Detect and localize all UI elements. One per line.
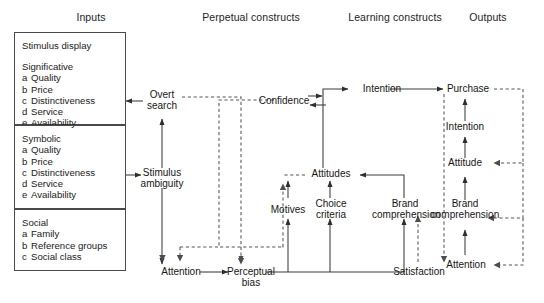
edge-brand-comprehension-to-attitudes [360, 175, 404, 198]
input-box-symbolic: Symbolic aQuality bPrice cDistinctivenes… [14, 125, 126, 209]
list-item: cSocial class [22, 251, 107, 262]
item-key: a [22, 228, 31, 239]
list-item: bReference groups [22, 240, 107, 251]
input-box-stimulus-display: Stimulus display Significative aQuality … [14, 32, 126, 125]
list-item: aQuality [22, 72, 95, 83]
list-item: bPrice [22, 84, 95, 95]
list-item: cDistinctiveness [22, 95, 95, 106]
node-perceptual-bias: Perceptual bias [226, 266, 276, 288]
input-box-title: Stimulus display [22, 40, 91, 51]
item-key: b [22, 156, 31, 167]
edge-purchase-to-attitude-out-dashed [494, 89, 523, 163]
arrowhead-attitude-out-dashed [494, 160, 501, 166]
item-key: c [22, 95, 31, 106]
item-key: c [22, 167, 31, 178]
item-key: c [22, 251, 31, 262]
item-text: Distinctiveness [31, 167, 95, 178]
node-attitudes: Attitudes [306, 168, 356, 179]
item-key: a [22, 72, 31, 83]
list-item: cDistinctiveness [22, 167, 95, 178]
node-stimulus-ambiguity: Stimulus ambiguity [133, 167, 191, 189]
node-intention-learning: Intention [358, 83, 406, 94]
node-choice-criteria: Choice criteria [312, 198, 350, 220]
item-text: Reference groups [31, 240, 107, 251]
arrowhead-attention-out-dashed [494, 262, 501, 268]
item-text: Price [31, 84, 53, 95]
diagram-canvas: Inputs Perpetual constructs Learning con… [0, 0, 544, 303]
edge-purchase-to-attention-out-dashed [497, 218, 523, 265]
node-intention-output: Intention [441, 121, 489, 132]
item-text: Quality [31, 144, 61, 155]
item-text: Social class [31, 251, 82, 262]
node-brand-comprehension-output: Brand comprehension [425, 198, 505, 220]
node-motives: Motives [266, 204, 310, 215]
input-box-group: Significative aQuality bPrice cDistincti… [22, 61, 95, 129]
node-attention-perpetual: Attention [155, 266, 207, 277]
item-text: Availability [31, 189, 76, 200]
list-item: eAvailability [22, 189, 95, 200]
item-text: Service [31, 178, 63, 189]
arrowhead-attitudes-dashed [280, 184, 286, 191]
node-purchase: Purchase [443, 83, 493, 94]
item-text: Price [31, 156, 53, 167]
item-text: Distinctiveness [31, 95, 95, 106]
item-key: a [22, 144, 31, 155]
item-key: d [22, 178, 31, 189]
arrowhead-perceptual-bias-dashed [238, 258, 244, 265]
item-text: Service [31, 106, 63, 117]
group-label: Social [22, 217, 107, 228]
list-item: aQuality [22, 144, 95, 155]
item-key: b [22, 84, 31, 95]
arrowhead-stimulus-ambiguity-dashed [159, 255, 165, 262]
item-key: b [22, 240, 31, 251]
item-text: Quality [31, 72, 61, 83]
group-label: Significative [22, 61, 95, 72]
item-key: d [22, 106, 31, 117]
node-attitude-output: Attitude [443, 157, 487, 168]
node-confidence: Confidence [256, 95, 312, 106]
node-attention-output: Attention [440, 259, 492, 270]
list-item: dService [22, 178, 95, 189]
edge-attitudes-to-intention [323, 89, 348, 168]
input-box-group: Social aFamily bReference groups cSocial… [22, 217, 107, 262]
input-box-group: Symbolic aQuality bPrice cDistinctivenes… [22, 133, 95, 201]
group-label: Symbolic [22, 133, 95, 144]
item-text: Family [31, 228, 59, 239]
list-item: aFamily [22, 228, 107, 239]
list-item: dService [22, 106, 95, 117]
arrowhead-attention-dashed [177, 255, 183, 262]
list-item: bPrice [22, 156, 95, 167]
edge-confidence-dashed-left [219, 100, 283, 247]
item-key: e [22, 189, 31, 200]
input-box-social: Social aFamily bReference groups cSocial… [14, 209, 126, 271]
node-overt-search: Overt search [140, 89, 184, 111]
